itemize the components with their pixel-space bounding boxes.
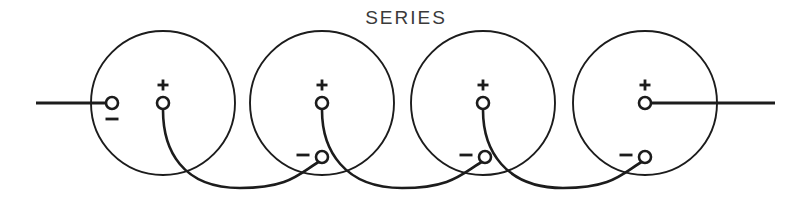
terminal-positive-cell-3[interactable] — [477, 97, 489, 109]
sign-plus-cell-2 — [317, 80, 328, 91]
sign-plus-cell-1 — [158, 80, 169, 91]
polarity-sign-group — [106, 80, 651, 156]
terminal-positive-cell-4[interactable] — [639, 97, 651, 109]
link-2-3 — [322, 110, 485, 188]
terminal-negative-cell-2[interactable] — [316, 151, 328, 163]
terminal-group — [106, 97, 651, 163]
cell-body-group — [91, 31, 717, 175]
link-1-2 — [163, 110, 322, 188]
series-battery-diagram: SERIES — [0, 0, 804, 207]
diagram-canvas: SERIES — [0, 0, 804, 207]
terminal-negative-cell-3[interactable] — [479, 151, 491, 163]
link-wire-group — [163, 110, 645, 188]
terminal-negative-cell-1[interactable] — [106, 97, 118, 109]
sign-plus-cell-3 — [478, 80, 489, 91]
terminal-negative-cell-4[interactable] — [639, 151, 651, 163]
link-3-4 — [483, 110, 645, 188]
terminal-positive-cell-2[interactable] — [316, 97, 328, 109]
sign-plus-cell-4 — [640, 80, 651, 91]
terminal-positive-cell-1[interactable] — [157, 97, 169, 109]
diagram-title: SERIES — [365, 7, 447, 28]
